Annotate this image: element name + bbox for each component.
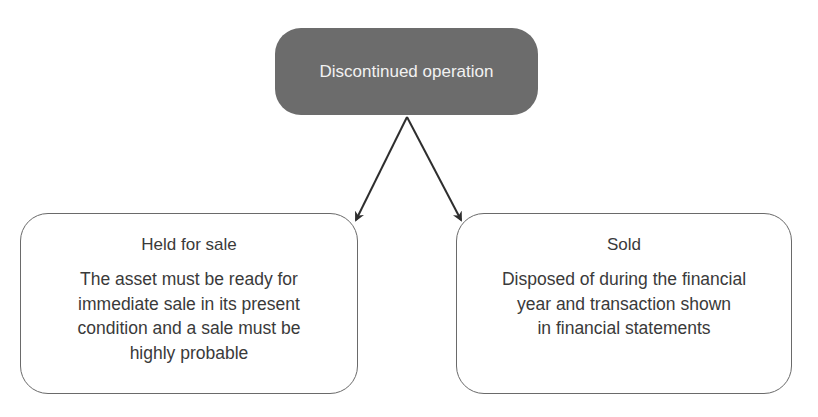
- root-node-discontinued-operation: Discontinued operation: [275, 28, 538, 115]
- node-title: Held for sale: [21, 234, 357, 256]
- description-line: The asset must be ready for: [21, 267, 357, 292]
- description-line: year and transaction shown: [457, 292, 791, 317]
- description-line: highly probable: [21, 341, 357, 366]
- arrow-to-sold: [407, 117, 461, 220]
- description-line: in financial statements: [457, 316, 791, 341]
- node-title: Sold: [457, 234, 791, 256]
- arrow-to-held-for-sale: [356, 117, 407, 220]
- description-line: Disposed of during the financial: [457, 267, 791, 292]
- root-node-label: Discontinued operation: [320, 62, 494, 82]
- node-description: The asset must be ready for immediate sa…: [21, 267, 357, 365]
- description-line: immediate sale in its present: [21, 292, 357, 317]
- description-line: condition and a sale must be: [21, 316, 357, 341]
- node-held-for-sale: Held for sale The asset must be ready fo…: [20, 213, 358, 394]
- node-description: Disposed of during the financial year an…: [457, 267, 791, 341]
- node-sold: Sold Disposed of during the financial ye…: [456, 213, 792, 394]
